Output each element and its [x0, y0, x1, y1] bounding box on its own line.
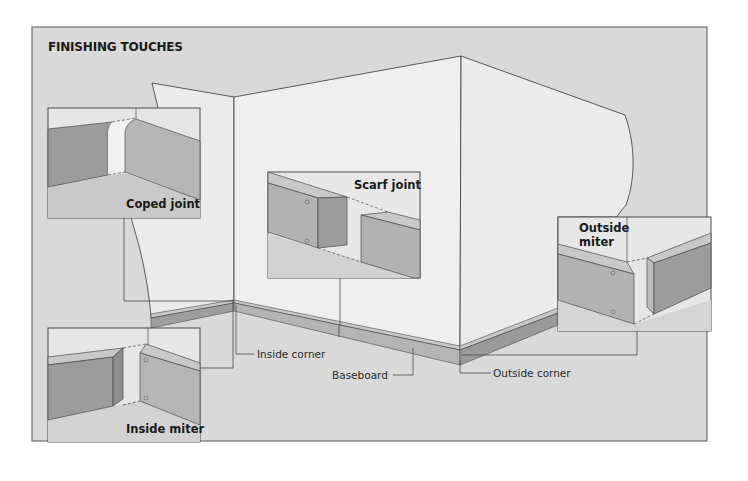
- inset-label-inside-miter: Inside miter: [126, 422, 205, 436]
- figure-title: FINISHING TOUCHES: [48, 40, 183, 54]
- inset-coped-joint: Coped joint: [48, 108, 201, 218]
- label-outside-corner: Outside corner: [493, 367, 571, 379]
- inset-label-outside-miter-line2: miter: [579, 235, 614, 249]
- label-baseboard: Baseboard: [332, 369, 388, 381]
- inset-inside-miter: Inside miter: [48, 328, 205, 442]
- inset-scarf-joint: Scarf joint: [268, 172, 422, 278]
- inset-label-outside-miter-line1: Outside: [579, 221, 629, 235]
- inset-outside-miter: Outside miter: [558, 217, 711, 331]
- label-inside-corner: Inside corner: [257, 348, 326, 360]
- finishing-touches-diagram: FINISHING TOUCHES Inside corner Baseboar…: [0, 0, 748, 481]
- inset-label-scarf-joint: Scarf joint: [354, 178, 422, 192]
- inset-label-coped-joint: Coped joint: [126, 197, 201, 211]
